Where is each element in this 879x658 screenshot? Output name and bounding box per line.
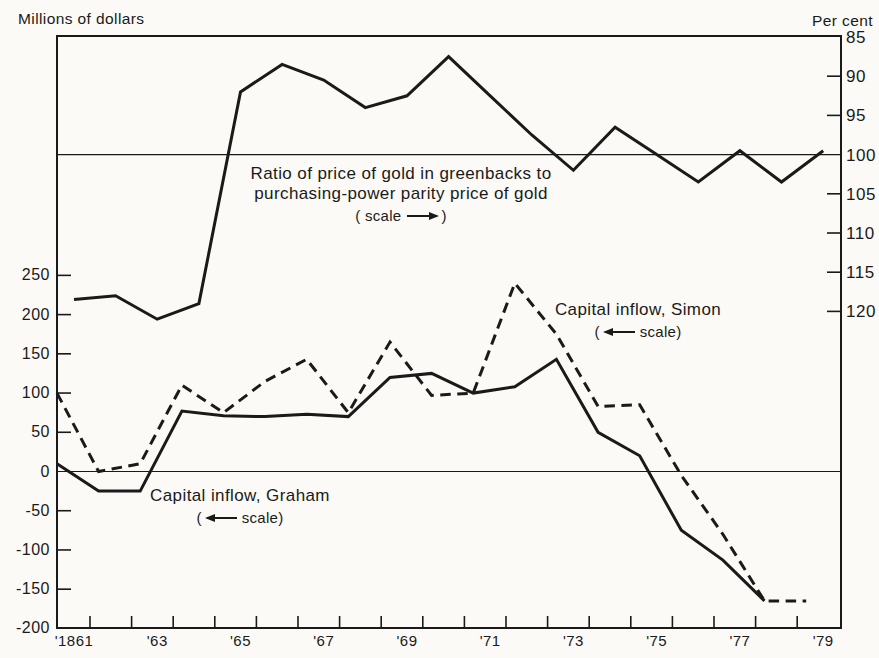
y-axis-label-left: 50 xyxy=(6,423,50,441)
y-axis-label-left: 250 xyxy=(6,266,50,284)
left-arrow-icon xyxy=(605,331,635,333)
y-axis-label-right: 100 xyxy=(846,146,876,166)
y-axis-label-right: 85 xyxy=(846,28,866,48)
y-axis-label-left: -200 xyxy=(6,619,50,637)
annotation-line: purchasing-power parity price of gold xyxy=(228,184,574,204)
y-axis-label-left: 150 xyxy=(6,345,50,363)
y-axis-label-right: 105 xyxy=(846,185,876,205)
scale-note: ( scale) xyxy=(228,206,574,226)
graham-capital-inflow-line xyxy=(57,359,765,601)
annotation-line: Ratio of price of gold in greenbacks to xyxy=(228,164,574,184)
scale-note: (scale) xyxy=(134,508,346,528)
x-axis-label: '79 xyxy=(788,632,858,649)
y-axis-label-right: 110 xyxy=(846,224,875,244)
x-axis-label: '73 xyxy=(538,632,608,649)
graham-series-label: Capital inflow, Graham (scale) xyxy=(134,486,346,528)
y-axis-label-left: -50 xyxy=(6,502,50,520)
y-axis-label-right: 90 xyxy=(846,67,866,87)
x-axis-label: '67 xyxy=(289,632,359,649)
annotation-line: Capital inflow, Graham xyxy=(134,486,346,506)
scale-note: (scale) xyxy=(538,322,738,342)
y-axis-label-left: -150 xyxy=(6,580,50,598)
right-arrow-icon xyxy=(407,215,437,217)
x-axis-label: '69 xyxy=(372,632,442,649)
y-axis-label-left: 0 xyxy=(6,463,50,481)
annotation-line: Capital inflow, Simon xyxy=(538,300,738,320)
x-axis-label: '75 xyxy=(622,632,692,649)
left-arrow-icon xyxy=(207,517,237,519)
x-axis-label: '77 xyxy=(705,632,775,649)
x-axis-label: '63 xyxy=(122,632,192,649)
y-axis-label-right: 115 xyxy=(846,263,875,283)
x-axis-label: '65 xyxy=(205,632,275,649)
y-axis-label-right: 120 xyxy=(846,302,876,322)
chart-canvas: Millions of dollars Per cent '1861'63'65… xyxy=(0,0,879,658)
plot-area xyxy=(0,0,879,658)
x-axis-label: '71 xyxy=(455,632,525,649)
y-axis-label-left: 200 xyxy=(6,306,50,324)
y-axis-label-left: -100 xyxy=(6,541,50,559)
simon-series-label: Capital inflow, Simon (scale) xyxy=(538,300,738,342)
y-axis-label-right: 95 xyxy=(846,106,866,126)
y-axis-label-left: 100 xyxy=(6,384,50,402)
gold-ratio-annotation: Ratio of price of gold in greenbacks to … xyxy=(228,164,574,226)
